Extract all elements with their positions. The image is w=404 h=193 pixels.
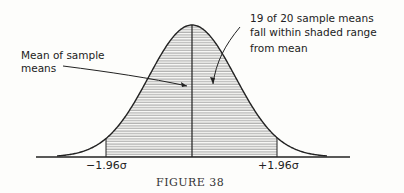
right-sigma-label: +1.96σ: [258, 159, 299, 172]
figure-caption: FIGURE 38: [156, 176, 224, 189]
range-annotation: 19 of 20 sample means fall within shaded…: [250, 11, 377, 55]
mean-annotation-line1: Mean of sample: [21, 49, 105, 62]
range-annotation-line2: fall within shaded range: [250, 25, 377, 39]
left-sigma-label: −1.96σ: [86, 159, 127, 172]
mean-annotation: Mean of sample means: [21, 49, 105, 75]
range-annotation-line3: from mean: [250, 41, 377, 55]
figure-caption-text: FIGURE 38: [156, 176, 224, 189]
mean-annotation-line2: means: [21, 62, 105, 75]
figure: Mean of sample means 19 of 20 sample mea…: [0, 0, 404, 193]
range-annotation-line1: 19 of 20 sample means: [250, 11, 377, 25]
